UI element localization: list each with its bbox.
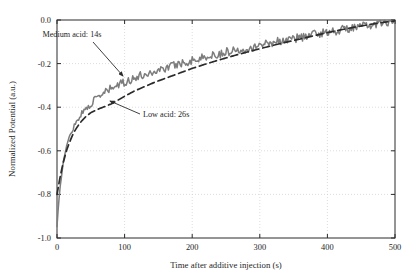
annotation-label-1: Medium acid: 14s bbox=[42, 30, 101, 39]
y-axis-title: Normalized Potential (a.u.) bbox=[7, 81, 17, 177]
figure-container: 0100200300400500 0.0-0.2-0.4-0.6-0.8-1.0… bbox=[0, 0, 419, 278]
y-tick-label: -0.4 bbox=[38, 103, 52, 112]
x-tick-label: 100 bbox=[118, 243, 131, 252]
annotation-label-2: Low acid: 26s bbox=[143, 110, 189, 119]
x-axis-title: Time after additive injection (s) bbox=[170, 260, 282, 270]
x-tick-label: 200 bbox=[186, 243, 199, 252]
y-tick-label: 0.0 bbox=[41, 16, 51, 25]
x-tick-label: 300 bbox=[254, 243, 267, 252]
x-tick-label: 500 bbox=[389, 243, 402, 252]
x-tick-label: 400 bbox=[321, 243, 334, 252]
chart-canvas: 0100200300400500 0.0-0.2-0.4-0.6-0.8-1.0… bbox=[0, 0, 419, 278]
x-tick-label: 0 bbox=[55, 243, 59, 252]
y-tick-label: -0.8 bbox=[38, 190, 51, 199]
figure-background bbox=[0, 0, 419, 278]
y-tick-label: -1.0 bbox=[38, 234, 51, 243]
y-tick-label: -0.2 bbox=[38, 60, 51, 69]
y-tick-label: -0.6 bbox=[38, 147, 51, 156]
